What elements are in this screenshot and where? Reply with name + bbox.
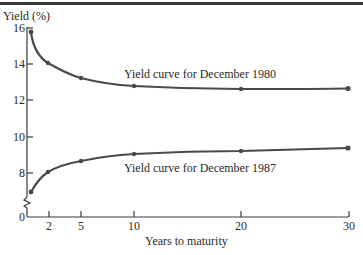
y-axis-label: Yield (%) bbox=[3, 9, 50, 23]
x-tick-2: 2 bbox=[46, 219, 52, 233]
point-1987-10y bbox=[132, 152, 136, 156]
axes bbox=[24, 27, 349, 217]
curve-1980-label: Yield curve for December 1980 bbox=[124, 67, 276, 81]
curve-1987-label: Yield curve for December 1987 bbox=[124, 161, 276, 175]
x-tick-30: 30 bbox=[343, 219, 355, 233]
y-tick-8: 8 bbox=[19, 166, 25, 180]
x-tick-10: 10 bbox=[128, 219, 140, 233]
point-1980-5y bbox=[79, 76, 83, 80]
point-1980-1y bbox=[29, 30, 34, 35]
y-axis-break bbox=[24, 197, 30, 208]
x-tick-labels: 2 5 10 20 30 bbox=[46, 219, 355, 233]
x-tick-20: 20 bbox=[235, 219, 247, 233]
point-1980-30y bbox=[345, 86, 350, 91]
point-1980-2y bbox=[46, 61, 50, 65]
point-1987-20y bbox=[239, 149, 243, 153]
point-1980-10y bbox=[132, 84, 136, 88]
y-tick-14: 14 bbox=[13, 57, 25, 71]
y-tick-16: 16 bbox=[13, 21, 25, 35]
y-tick-10: 10 bbox=[13, 130, 25, 144]
x-tick-5: 5 bbox=[78, 219, 84, 233]
series-1980: Yield curve for December 1980 bbox=[29, 30, 351, 92]
y-tick-12: 12 bbox=[13, 93, 25, 107]
point-1987-2y bbox=[46, 170, 50, 174]
point-1987-1y bbox=[29, 190, 34, 195]
y-tick-labels: 16 14 12 10 8 0 bbox=[13, 21, 25, 224]
y-tick-0: 0 bbox=[19, 210, 25, 224]
point-1980-20y bbox=[239, 87, 243, 91]
series-1987: Yield curve for December 1987 bbox=[29, 145, 351, 194]
point-1987-30y bbox=[345, 145, 350, 150]
x-axis-label: Years to maturity bbox=[145, 234, 228, 248]
yield-curve-chart: Yield (%) Years to maturity 16 14 12 10 … bbox=[0, 0, 363, 255]
point-1987-5y bbox=[79, 159, 83, 163]
